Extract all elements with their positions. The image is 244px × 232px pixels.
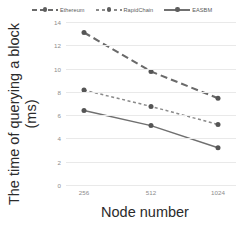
legend-item-easbm[interactable]: EASBM [164, 3, 212, 17]
y-tick-label: 4 [58, 135, 61, 142]
legend-marker-icon [164, 6, 190, 14]
y-gridline [66, 92, 236, 93]
y-gridline [66, 185, 236, 186]
y-gridline [66, 138, 236, 139]
y-tick-label: 6 [58, 112, 61, 119]
series-line-ethereum [84, 32, 218, 98]
data-point-ethereum-512 [149, 69, 154, 74]
y-gridline [66, 22, 236, 23]
series-layer [66, 22, 236, 185]
line-chart: EthereumRapidChainEASBM The time of quer… [0, 0, 244, 232]
y-tick-label: 0 [58, 182, 61, 189]
data-point-easbm-1024 [216, 145, 221, 150]
y-gridline [66, 45, 236, 46]
y-tick-label: 14 [54, 19, 61, 26]
x-axis-title: Node number [50, 204, 240, 220]
data-point-ethereum-1024 [216, 96, 221, 101]
y-axis-title-line: (ms) [23, 100, 40, 129]
legend-marker-icon [32, 6, 58, 14]
legend-item-label: Ethereum [60, 6, 85, 14]
y-tick-label: 10 [54, 65, 61, 72]
data-point-ethereum-256 [82, 30, 87, 35]
legend-item-ethereum[interactable]: Ethereum [32, 3, 85, 17]
legend-item-label: EASBM [192, 6, 212, 14]
plot-area: 024681012142565121024 [66, 22, 236, 185]
y-tick-label: 8 [58, 88, 61, 95]
data-point-rapidchain-1024 [216, 122, 221, 127]
y-gridline [66, 162, 236, 163]
x-tick-label: 512 [146, 189, 156, 196]
y-gridline [66, 115, 236, 116]
legend-marker-icon [96, 6, 122, 14]
y-axis-title: The time of querying a block(ms) [4, 14, 42, 214]
data-point-easbm-512 [149, 123, 154, 128]
y-tick-label: 12 [54, 42, 61, 49]
data-point-rapidchain-512 [149, 104, 154, 109]
y-tick-label: 2 [58, 158, 61, 165]
chart-legend: EthereumRapidChainEASBM [0, 2, 244, 18]
y-gridline [66, 69, 236, 70]
data-point-easbm-256 [82, 108, 87, 113]
legend-item-rapidchain[interactable]: RapidChain [96, 3, 154, 17]
x-tick-label: 256 [79, 189, 89, 196]
y-axis-title-line: The time of querying a block [6, 23, 23, 205]
legend-item-label: RapidChain [124, 6, 154, 14]
x-tick-label: 1024 [211, 189, 225, 196]
